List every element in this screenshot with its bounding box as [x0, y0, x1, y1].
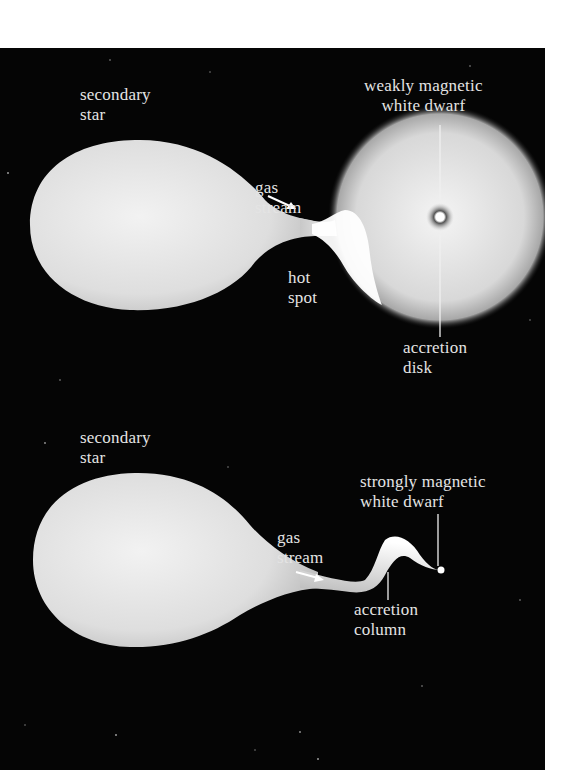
gas-stream-label-top: gas stream [255, 178, 302, 218]
accretion-disk-label: accretion disk [403, 338, 467, 378]
secondary-star-label-top: secondary star [80, 85, 151, 125]
secondary-star-top [30, 140, 318, 310]
diagram-panel [0, 48, 545, 770]
white-dwarf-label-bottom: strongly magnetic white dwarf [360, 472, 486, 512]
strongly-magnetic-white-dwarf [438, 567, 445, 574]
secondary-star-bottom [33, 473, 318, 647]
hot-spot-label: hot spot [288, 268, 317, 308]
weakly-magnetic-white-dwarf [426, 203, 454, 231]
accretion-column-label: accretion column [354, 600, 418, 640]
secondary-star-label-bottom: secondary star [80, 428, 151, 468]
white-dwarf-label-top: weakly magnetic white dwarf [364, 76, 483, 116]
diagram-artwork [0, 48, 545, 770]
gas-stream-label-bottom: gas stream [277, 528, 324, 568]
